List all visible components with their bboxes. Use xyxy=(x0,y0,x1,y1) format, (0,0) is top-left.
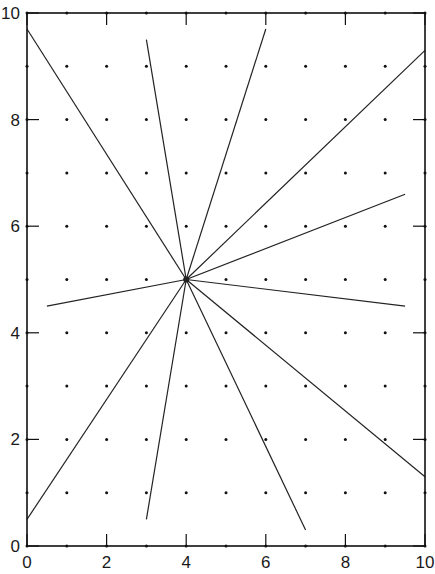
grid-dot xyxy=(264,438,267,441)
grid-dot xyxy=(225,491,228,494)
grid-dot xyxy=(344,385,347,388)
grid-dot xyxy=(105,278,108,281)
grid-dot xyxy=(304,385,307,388)
grid-dot xyxy=(344,118,347,121)
grid-dot xyxy=(185,331,188,334)
grid-dot xyxy=(304,118,307,121)
grid-dot xyxy=(304,65,307,68)
grid-dot xyxy=(264,65,267,68)
grid-dot xyxy=(344,278,347,281)
y-axis-tick-labels: 0246810 xyxy=(1,4,20,556)
grid-dot xyxy=(304,491,307,494)
grid-dot xyxy=(105,118,108,121)
grid-dot xyxy=(145,331,148,334)
x-tick-label: 6 xyxy=(261,553,270,572)
grid-dot xyxy=(145,65,148,68)
grid-dot xyxy=(264,385,267,388)
y-tick-label: 0 xyxy=(11,537,20,556)
grid-dot xyxy=(145,118,148,121)
ray-2 xyxy=(146,40,186,280)
x-tick-label: 8 xyxy=(341,553,350,572)
grid-dot xyxy=(145,438,148,441)
y-tick-label: 4 xyxy=(11,324,20,343)
grid-dot xyxy=(65,385,68,388)
ray-5 xyxy=(186,194,405,279)
grid-dot xyxy=(225,385,228,388)
grid-dot xyxy=(344,65,347,68)
grid-dot xyxy=(185,438,188,441)
grid-dot xyxy=(264,118,267,121)
grid-dot xyxy=(225,225,228,228)
grid-dot xyxy=(225,438,228,441)
grid-dots xyxy=(26,12,427,548)
grid-dot xyxy=(65,331,68,334)
y-tick-label: 2 xyxy=(11,430,20,449)
grid-dot xyxy=(145,491,148,494)
grid-dot xyxy=(384,278,387,281)
grid-dot xyxy=(145,225,148,228)
grid-dot xyxy=(185,65,188,68)
grid-dot xyxy=(264,491,267,494)
grid-dot xyxy=(264,225,267,228)
x-axis-tick-labels: 0246810 xyxy=(22,553,434,572)
grid-dot xyxy=(344,225,347,228)
grid-dot xyxy=(344,331,347,334)
x-tick-label: 4 xyxy=(181,553,190,572)
grid-dot xyxy=(105,171,108,174)
grid-dot xyxy=(304,331,307,334)
grid-dot xyxy=(225,171,228,174)
grid-dot xyxy=(344,438,347,441)
grid-dot xyxy=(105,438,108,441)
grid-dot xyxy=(225,65,228,68)
grid-dot xyxy=(225,278,228,281)
grid-dot xyxy=(65,118,68,121)
grid-dot xyxy=(384,438,387,441)
grid-dot xyxy=(105,331,108,334)
grid-dot xyxy=(384,331,387,334)
grid-dot xyxy=(65,278,68,281)
x-tick-label: 2 xyxy=(102,553,111,572)
grid-dot xyxy=(384,491,387,494)
ray-10 xyxy=(27,280,186,520)
grid-dot xyxy=(65,438,68,441)
grid-dot xyxy=(384,171,387,174)
grid-dot xyxy=(145,171,148,174)
y-tick-label: 6 xyxy=(11,217,20,236)
grid-dot xyxy=(384,225,387,228)
grid-dot xyxy=(65,65,68,68)
grid-dot xyxy=(304,171,307,174)
grid-dot xyxy=(384,385,387,388)
x-tick-label: 10 xyxy=(416,553,435,572)
grid-dot xyxy=(145,278,148,281)
grid-dot xyxy=(185,118,188,121)
x-tick-label: 0 xyxy=(22,553,31,572)
grid-dot xyxy=(105,65,108,68)
y-tick-label: 8 xyxy=(11,111,20,130)
grid-dot xyxy=(304,225,307,228)
ray-plot: 0246810 0246810 xyxy=(0,0,435,574)
grid-dot xyxy=(105,385,108,388)
ray-9 xyxy=(146,280,186,520)
grid-dot xyxy=(185,491,188,494)
grid-dot xyxy=(145,385,148,388)
grid-dot xyxy=(105,225,108,228)
y-tick-label: 10 xyxy=(1,4,20,23)
grid-dot xyxy=(304,278,307,281)
grid-dot xyxy=(185,385,188,388)
center-point xyxy=(183,277,189,283)
grid-dot xyxy=(344,491,347,494)
grid-dot xyxy=(65,225,68,228)
grid-dot xyxy=(65,491,68,494)
ray-7 xyxy=(186,280,425,477)
ray-8 xyxy=(186,280,305,531)
grid-dot xyxy=(225,118,228,121)
grid-dot xyxy=(225,331,228,334)
ray-6 xyxy=(186,280,405,307)
grid-dot xyxy=(264,171,267,174)
grid-dot xyxy=(344,171,347,174)
grid-dot xyxy=(105,491,108,494)
grid-dot xyxy=(65,171,68,174)
grid-dot xyxy=(384,65,387,68)
grid-dot xyxy=(264,278,267,281)
grid-dot xyxy=(264,331,267,334)
